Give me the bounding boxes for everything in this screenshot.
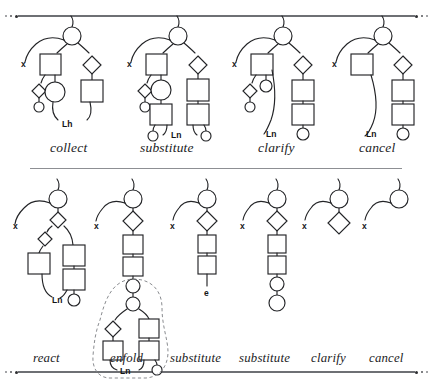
label-x-substitute-b1: x bbox=[170, 221, 175, 231]
bottom-rule-left-dots bbox=[5, 371, 18, 374]
caption-enfold: enfold bbox=[110, 351, 143, 366]
label-x-clarify-top: x bbox=[232, 59, 237, 69]
label-e-substitute-b1: e bbox=[204, 288, 209, 298]
panel-collect: x Lh bbox=[21, 16, 103, 129]
bottom-rule-bar bbox=[18, 371, 415, 374]
label-Ln-clarify-top: Ln bbox=[266, 129, 276, 139]
label-x-cancel-b: x bbox=[362, 221, 367, 231]
label-x-clarify-b: x bbox=[302, 221, 307, 231]
label-Ln-substitute-top: Ln bbox=[171, 130, 181, 140]
diagram-canvas: .ln{fill:none;stroke:#232427;stroke-widt… bbox=[0, 0, 432, 383]
caption-cancel-b: cancel bbox=[369, 351, 404, 366]
panel-enfold: x Ln bbox=[93, 179, 168, 378]
top-rule-left-dots bbox=[5, 15, 18, 18]
panel-cancel-top: x Ln bbox=[332, 16, 414, 140]
top-rule-right-dots bbox=[415, 15, 428, 18]
panel-substitute-b2: x bbox=[240, 179, 287, 311]
caption-substitute-b1: substitute bbox=[170, 351, 221, 366]
caption-react: react bbox=[33, 351, 60, 366]
label-x-substitute-b2: x bbox=[240, 221, 245, 231]
top-rule-bar bbox=[18, 15, 415, 18]
label-Lh-collect: Lh bbox=[62, 119, 72, 129]
panel-cancel-b: x bbox=[362, 179, 408, 231]
label-x-react: x bbox=[13, 221, 18, 231]
caption-substitute-top: substitute bbox=[140, 140, 194, 156]
caption-substitute-b2: substitute bbox=[239, 351, 290, 366]
label-x-cancel-top: x bbox=[332, 59, 337, 69]
label-x-substitute-top: x bbox=[127, 59, 132, 69]
panel-substitute-top: x Ln bbox=[127, 16, 211, 141]
caption-clarify-top: clarify bbox=[258, 140, 295, 156]
middle-rule bbox=[30, 168, 402, 169]
caption-cancel-top: cancel bbox=[359, 140, 395, 156]
bottom-rule-right-dots bbox=[415, 371, 428, 374]
figure-page: .ln{fill:none;stroke:#232427;stroke-widt… bbox=[0, 0, 432, 383]
label-Ln-react: Ln bbox=[52, 295, 62, 305]
panel-react: x Ln bbox=[13, 179, 85, 306]
label-x-enfold: x bbox=[94, 221, 99, 231]
panel-clarify-b: x bbox=[302, 179, 350, 234]
caption-collect: collect bbox=[50, 140, 87, 156]
bottom-decorative-rule bbox=[0, 366, 432, 378]
label-x-collect: x bbox=[21, 59, 26, 69]
label-Ln-cancel-top: Ln bbox=[366, 129, 376, 139]
caption-clarify-b: clarify bbox=[311, 351, 346, 366]
panel-clarify-top: x Ln bbox=[232, 16, 314, 140]
top-decorative-rule bbox=[0, 10, 432, 22]
panel-substitute-b1: x e bbox=[170, 179, 217, 298]
